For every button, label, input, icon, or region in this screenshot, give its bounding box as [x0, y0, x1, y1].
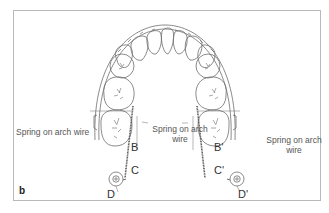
panel-label: b [19, 185, 25, 196]
molar-right-1 [196, 77, 226, 110]
label-left-spring: Spring on arch wire [16, 127, 89, 137]
point-b: B [131, 141, 138, 153]
point-c: C [131, 164, 139, 176]
point-c-prime: C' [214, 164, 224, 176]
label-center-line2: wire [150, 134, 210, 144]
dental-arch-diagram [0, 0, 329, 213]
point-d: D [107, 188, 115, 200]
point-d-prime: D' [238, 188, 248, 200]
point-b-prime: B' [214, 141, 223, 153]
anterior-teeth [115, 28, 215, 68]
label-right-line2: wire [264, 145, 324, 155]
label-right-spring: Spring on arch wire [264, 135, 324, 155]
molar-left-1 [104, 77, 134, 110]
label-right-line1: Spring on arch [264, 135, 324, 145]
label-center-spring: Spring on arch wire [150, 124, 210, 144]
label-center-line1: Spring on arch [150, 124, 210, 134]
